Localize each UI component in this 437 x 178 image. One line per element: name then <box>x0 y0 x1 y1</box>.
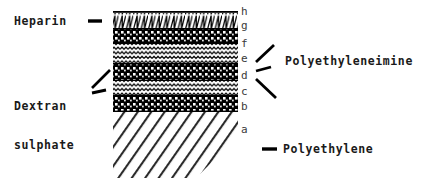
layer-letter-g: g <box>241 20 248 31</box>
layer-letter-d: d <box>241 70 248 81</box>
band-polyethylene-substrate <box>113 112 238 178</box>
layer-letter-e: e <box>241 53 248 64</box>
layer-letter-a: a <box>241 124 248 135</box>
band-dextran-wavy-top <box>113 44 238 63</box>
label-dextran-sulphate: Dextran sulphate <box>14 74 74 178</box>
label-dextran-line-2: sulphate <box>14 139 74 152</box>
layer-bands <box>113 11 238 178</box>
label-polyethyleneimine: Polyethyleneimine <box>285 55 413 68</box>
band-pei-dotted-middle <box>113 63 238 81</box>
label-dextran-line-1: Dextran <box>14 100 74 113</box>
leader-pei-lower <box>256 79 276 98</box>
layer-letter-b: b <box>241 101 248 112</box>
band-pei-dotted-top <box>113 28 238 44</box>
label-polyethylene: Polyethylene <box>283 143 373 156</box>
band-pei-dotted-bottom <box>113 95 238 112</box>
figure-canvas: Heparin Dextran sulphate Polyethyleneimi… <box>0 0 437 178</box>
leader-pei-middle <box>256 67 271 71</box>
band-heparin-zigzag <box>113 13 238 28</box>
layer-letter-f: f <box>241 38 248 49</box>
leader-dextran-upper <box>92 70 110 88</box>
band-dextran-wavy-bottom <box>113 81 238 95</box>
leader-pei-upper <box>256 45 274 62</box>
band-surface-line <box>113 11 238 13</box>
leader-dextran-lower <box>92 90 106 93</box>
layer-letter-c: c <box>241 86 248 97</box>
label-heparin: Heparin <box>14 15 67 28</box>
layer-letter-h: h <box>241 6 248 17</box>
